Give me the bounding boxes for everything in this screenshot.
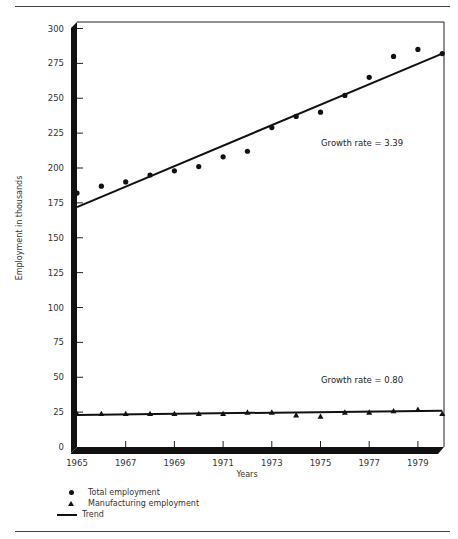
x-tick-label: 1967 (115, 458, 137, 468)
data-point-total (123, 179, 128, 184)
y-tick-label: 275 (48, 58, 64, 68)
legend: Total employment Manufacturing employmen… (60, 487, 199, 520)
data-point-total (245, 149, 250, 154)
x-axis-title: Years (235, 470, 257, 479)
plot-frame (71, 22, 444, 454)
data-point-total (415, 47, 420, 52)
legend-item-total: Total employment (60, 487, 199, 498)
y-tick-label: 75 (53, 337, 64, 347)
chart: 0255075100125150175200225250275300 19651… (0, 0, 458, 539)
x-tick-label: 1975 (310, 458, 332, 468)
data-point-total (99, 184, 104, 189)
x-tick-label: 1965 (66, 458, 88, 468)
y-tick-label: 100 (48, 303, 64, 313)
trend-line-icon (57, 514, 77, 516)
y-tick-label: 225 (48, 128, 64, 138)
x-tick-label: 1977 (358, 458, 380, 468)
data-point-total (367, 75, 372, 80)
y-tick-label: 250 (48, 93, 64, 103)
y-tick-label: 50 (53, 372, 64, 382)
y-axis: 0255075100125150175200225250275300 (48, 24, 83, 453)
x-tick-label: 1979 (407, 458, 429, 468)
data-point-total (391, 54, 396, 59)
triangle-marker-icon (68, 501, 74, 506)
y-tick-label: 175 (48, 198, 64, 208)
growth-rate-manufacturing-label: Growth rate = 0.80 (321, 375, 403, 385)
data-point-total (196, 164, 201, 169)
x-tick-label: 1969 (164, 458, 186, 468)
legend-item-trend: Trend (60, 509, 199, 520)
x-axis: 19651967196919711973197519771979 (66, 441, 429, 468)
trend-line (77, 411, 442, 415)
data-point-total (342, 93, 347, 98)
x-tick-label: 1973 (261, 458, 283, 468)
y-axis-title: Employment in thousands (15, 176, 24, 281)
data-point-total (74, 191, 79, 196)
data-point-total (294, 114, 299, 119)
data-point-total (318, 110, 323, 115)
growth-rate-total-label: Growth rate = 3.39 (321, 138, 403, 148)
bottom-rule (15, 531, 450, 532)
data-point-total (147, 172, 152, 177)
y-tick-label: 150 (48, 233, 64, 243)
trend-lines (77, 54, 442, 415)
y-tick-label: 200 (48, 163, 64, 173)
data-point-total (221, 154, 226, 159)
y-tick-label: 125 (48, 268, 64, 278)
data-point-manufacturing (318, 414, 324, 419)
legend-item-manufacturing: Manufacturing employment (60, 498, 199, 509)
data-point-total (440, 51, 445, 56)
trend-line (77, 54, 442, 207)
y-tick-label: 300 (48, 24, 64, 34)
circle-marker-icon (69, 490, 74, 495)
data-points (74, 47, 445, 419)
data-point-manufacturing (98, 411, 104, 416)
y-tick-label: 25 (53, 407, 64, 417)
x-tick-label: 1971 (212, 458, 234, 468)
data-point-total (269, 125, 274, 130)
data-point-manufacturing (415, 407, 421, 412)
y-tick-label: 0 (59, 442, 64, 452)
data-point-total (172, 168, 177, 173)
